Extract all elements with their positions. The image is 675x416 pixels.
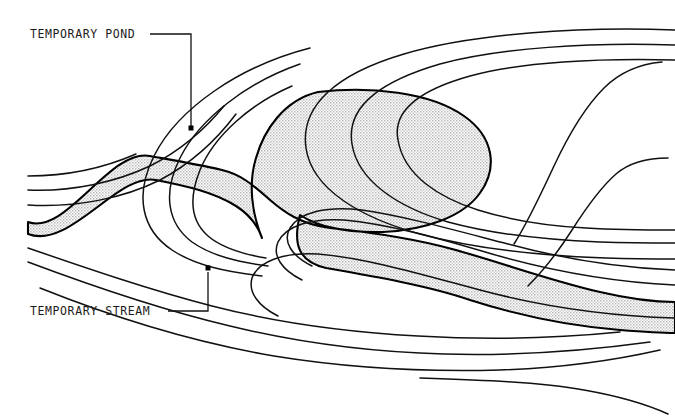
temporary-stream-marker-dot <box>206 266 211 271</box>
temporary-stream-label: TEMPORARY STREAM <box>30 304 150 318</box>
temporary-pond-label: TEMPORARY POND <box>30 27 135 41</box>
temporary-pond-marker-dot <box>189 126 194 131</box>
topographic-map-figure: TEMPORARY POND TEMPORARY STREAM <box>0 0 675 416</box>
map-canvas: TEMPORARY POND TEMPORARY STREAM <box>0 0 675 416</box>
